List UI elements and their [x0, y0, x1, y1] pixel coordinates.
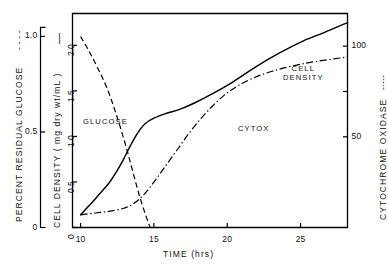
tick-label: 25: [292, 234, 310, 244]
curve-label-cell-line1: CELL: [292, 64, 315, 73]
cell-density-axis-legend-dash: —: [52, 32, 64, 44]
curve-label-glucose: GLUCOSE: [83, 117, 128, 126]
x-axis-title: TIME (hrs): [163, 249, 214, 259]
tick-label: 20: [218, 234, 236, 244]
tick-label: 10: [72, 234, 90, 244]
glucose-axis-title: PERCENT RESIDUAL GLUCOSE: [14, 67, 24, 222]
curve-label-cytox: CYTOX: [238, 124, 270, 133]
glucose-axis-legend-dash: - - - -: [14, 31, 24, 51]
tick-label: 50: [352, 131, 362, 141]
tick-label: 100: [352, 40, 367, 50]
cell-density-axis-title: CELL DENSITY ( mg dry wt/mL ): [52, 73, 62, 228]
tick-label: 2.0: [66, 45, 76, 57]
x-axis-ticks: [81, 223, 301, 228]
cytochrome-axis-legend-dash: -·-·-: [378, 75, 388, 90]
tick-label: 15: [145, 234, 163, 244]
curve-glucose: [81, 36, 151, 227]
tick-label: 1.0: [66, 136, 76, 148]
cytochrome-ticks: [343, 46, 348, 137]
cytochrome-axis-title: CYTOCHROME OXIDASE: [378, 99, 388, 220]
glucose-axis-spine: [41, 27, 46, 227]
tick-label: 0: [18, 222, 38, 232]
curve-label-cell-line2: DENSITY: [283, 73, 324, 82]
tick-label: 1.5: [66, 90, 76, 102]
curve-label-cell-density: CELL DENSITY: [283, 64, 324, 82]
tick-label: 0.5: [66, 181, 76, 193]
